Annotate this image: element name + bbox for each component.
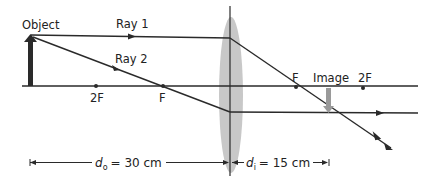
right-2f-point — [361, 86, 365, 90]
object-arrow — [24, 34, 37, 86]
object-label: Object — [22, 18, 60, 32]
image-label: Image — [313, 71, 349, 85]
ray-2-label: Ray 2 — [115, 52, 148, 66]
image-arrow — [323, 88, 334, 113]
right-f-point — [294, 85, 298, 89]
ray-1 — [31, 34, 393, 151]
right-f-label: F — [292, 71, 299, 85]
lens-diagram: Object Ray 1 Ray 2 2F F F Image 2F do= 3… — [0, 0, 441, 185]
image-distance-label: di= 15 cm — [246, 156, 310, 172]
right-2f-label: 2F — [358, 71, 372, 85]
object-distance-label: do= 30 cm — [95, 156, 162, 172]
left-f-label: F — [159, 91, 166, 105]
converging-lens — [219, 17, 243, 173]
left-2f-point — [94, 84, 98, 88]
ray-1-label: Ray 1 — [116, 17, 149, 31]
left-f-point — [161, 84, 165, 88]
left-2f-label: 2F — [90, 91, 104, 105]
